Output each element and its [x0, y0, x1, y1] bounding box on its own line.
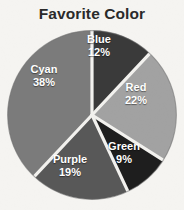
slice-label-cyan-name: Cyan [18, 63, 70, 76]
slice-label-blue-value: 12% [76, 46, 122, 59]
slice-label-purple-value: 19% [42, 166, 98, 179]
slice-label-red: Red 22% [113, 81, 159, 106]
pie-chart-figure: Favorite Color Blue 12% Red 22% Green 9%… [0, 0, 184, 210]
slice-label-purple: Purple 19% [42, 153, 98, 178]
slice-label-green-value: 9% [100, 153, 148, 166]
slice-label-blue-name: Blue [76, 33, 122, 46]
slice-label-blue: Blue 12% [76, 33, 122, 58]
chart-title: Favorite Color [0, 5, 184, 23]
slice-label-red-value: 22% [113, 94, 159, 107]
slice-label-red-name: Red [113, 81, 159, 94]
slice-label-cyan-value: 38% [18, 76, 70, 89]
slice-label-green: Green 9% [100, 140, 148, 165]
slice-label-purple-name: Purple [42, 153, 98, 166]
slice-label-green-name: Green [100, 140, 148, 153]
slice-label-cyan: Cyan 38% [18, 63, 70, 88]
